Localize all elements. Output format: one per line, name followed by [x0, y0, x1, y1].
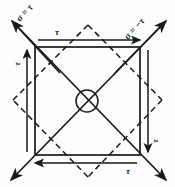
pure-shear-diagram: τ τ τ τ σ = τ σ = −τ — [0, 0, 175, 187]
diagram-canvas: τ τ τ τ σ = τ σ = −τ — [0, 0, 175, 187]
shear-label-top: τ — [55, 27, 60, 37]
principal-tension-label: σ = τ — [14, 2, 35, 24]
principal-compression-label: σ = −τ — [122, 15, 147, 41]
shear-label-left: τ — [12, 61, 22, 66]
shear-label-bottom: τ — [126, 166, 131, 176]
shear-label-right: τ — [150, 138, 160, 143]
